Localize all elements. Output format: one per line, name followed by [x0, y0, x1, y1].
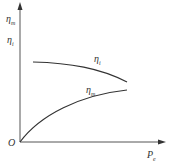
eta-m-curve — [20, 90, 127, 142]
y-label-eta-i-sub: i — [12, 41, 14, 47]
y-label-eta-m-sub: m — [11, 20, 15, 26]
curve-label-eta-i: ηi — [94, 54, 101, 66]
x-label-pe-sub: e — [153, 156, 156, 161]
y-axis-arrow-icon — [18, 2, 23, 10]
origin-label: O — [8, 138, 15, 148]
curve-label-eta-i-sub: i — [99, 60, 101, 66]
y-label-eta-i: ηi — [7, 35, 14, 47]
curve-label-eta-m-sub: m — [91, 91, 95, 97]
x-axis-arrow-icon — [158, 140, 166, 145]
x-label-pe: Pe — [147, 150, 156, 161]
curve-label-eta-m: ηm — [86, 85, 95, 97]
chart-canvas — [0, 0, 170, 161]
y-label-eta-m: ηm — [6, 14, 15, 26]
eta-i-curve — [33, 62, 127, 82]
